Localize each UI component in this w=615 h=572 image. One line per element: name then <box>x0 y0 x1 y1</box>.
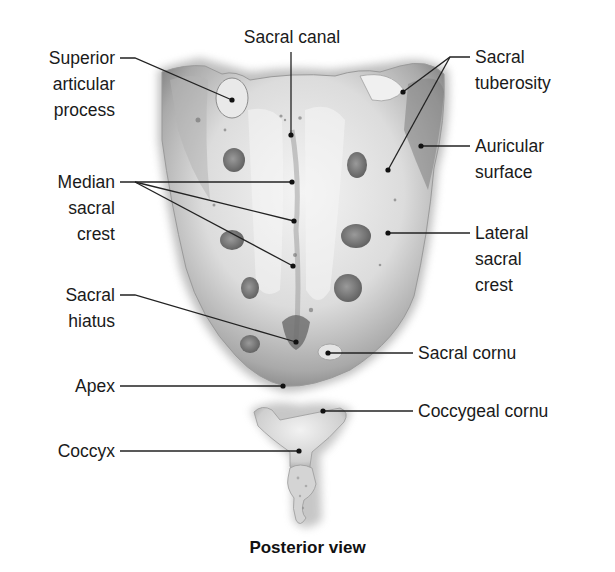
label-coccygeal-cornu: Coccygeal cornu <box>418 398 608 424</box>
leader-dot-apex <box>280 383 285 388</box>
label-sacral-tuberosity: Sacral tuberosity <box>475 44 605 96</box>
label-sacral-hiatus: Sacral hiatus <box>10 282 115 334</box>
leader-dot-median-sacral-crest-3 <box>290 263 295 268</box>
leader-dot-sacral-tuberosity-1 <box>400 89 405 94</box>
sacrum <box>162 63 444 386</box>
label-sacral-canal: Sacral canal <box>232 24 352 50</box>
leader-dot-lateral-sacral-crest <box>385 230 390 235</box>
leader-dot-median-sacral-crest-1 <box>289 179 294 184</box>
label-coccyx: Coccyx <box>10 438 115 464</box>
coccyx <box>254 407 346 523</box>
leader-dot-coccygeal-cornu <box>320 408 325 413</box>
leader-dot-sacral-tuberosity-2 <box>385 167 390 172</box>
label-superior-articular-process: Superior articular process <box>10 45 115 123</box>
leader-dot-sacral-hiatus <box>293 339 298 344</box>
leader-dot-median-sacral-crest-2 <box>291 218 296 223</box>
figure-caption: Posterior view <box>0 538 615 558</box>
label-apex: Apex <box>10 373 115 399</box>
label-sacral-cornu: Sacral cornu <box>418 340 598 366</box>
leader-dot-sacral-cornu <box>325 350 330 355</box>
leader-dot-superior-articular-process <box>229 97 234 102</box>
label-lateral-sacral-crest: Lateral sacral crest <box>475 220 605 298</box>
leader-dot-sacral-canal <box>288 132 293 137</box>
label-auricular-surface: Auricular surface <box>475 133 605 185</box>
leader-dot-coccyx <box>296 448 301 453</box>
label-median-sacral-crest: Median sacral crest <box>10 169 115 247</box>
leader-dot-auricular-surface <box>418 143 423 148</box>
